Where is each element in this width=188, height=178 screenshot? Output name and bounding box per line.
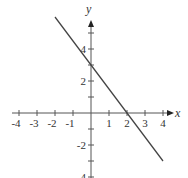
x-tick-label: -2 xyxy=(47,117,56,129)
x-tick-label: 3 xyxy=(142,117,148,129)
y-axis-label: y xyxy=(85,2,92,16)
line-chart: -4-3-2-11234-4-224 x y xyxy=(0,0,188,178)
y-tick-label: -4 xyxy=(77,171,87,178)
x-tick-label: -4 xyxy=(11,117,21,129)
axes xyxy=(12,20,174,178)
y-tick-label: 2 xyxy=(81,75,87,87)
data-line xyxy=(55,17,163,161)
y-axis-arrow-icon xyxy=(88,20,94,27)
data-series xyxy=(55,17,163,161)
x-tick-label: 2 xyxy=(124,117,130,129)
x-axis-label: x xyxy=(174,106,181,120)
y-tick-label: -2 xyxy=(77,139,86,151)
x-tick-label: -3 xyxy=(29,117,39,129)
x-tick-label: 4 xyxy=(160,117,166,129)
x-tick-label: -1 xyxy=(65,117,74,129)
ticks: -4-3-2-11234-4-224 xyxy=(11,33,166,178)
x-axis-arrow-icon xyxy=(167,110,174,116)
x-tick-label: 1 xyxy=(106,117,112,129)
